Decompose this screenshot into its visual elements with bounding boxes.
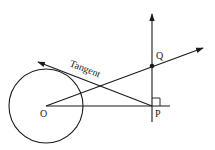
label-p: P [155,108,161,119]
geometry-diagram: O Q P Tangent [0,0,215,150]
point-q-dot [150,64,155,69]
right-angle-marker [152,98,160,106]
label-o: O [40,108,47,119]
label-q: Q [156,50,164,61]
